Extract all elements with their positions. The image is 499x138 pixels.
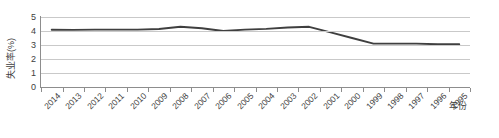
y-tick-label-3: 3: [20, 40, 36, 50]
x-axis-tick-20: [470, 88, 471, 92]
x-axis-tick-19: [449, 88, 450, 92]
x-axis-tick-17: [406, 88, 407, 92]
x-tick-label-2011: 2011: [106, 91, 126, 111]
x-axis-tick-11: [277, 88, 278, 92]
x-axis-tick-2: [84, 88, 85, 92]
x-tick-label-1999: 1999: [364, 91, 384, 111]
x-tick-label-2008: 2008: [170, 91, 190, 111]
series-polyline-0: [52, 27, 460, 45]
y-axis-title-text: 失业率(%): [4, 38, 17, 79]
x-axis-tick-10: [256, 88, 257, 92]
x-axis-tick-labels: 2014201320122011201020092008200720062005…: [0, 92, 499, 138]
x-axis-tick-8: [213, 88, 214, 92]
x-axis-tick-13: [320, 88, 321, 92]
gridline-y-1: [41, 73, 470, 74]
x-tick-label-2014: 2014: [42, 91, 62, 111]
x-tick-label-2012: 2012: [85, 91, 105, 111]
x-axis-tick-3: [105, 88, 106, 92]
x-axis-tick-4: [127, 88, 128, 92]
x-tick-label-2001: 2001: [321, 91, 341, 111]
x-tick-label-2007: 2007: [192, 91, 212, 111]
x-tick-label-2005: 2005: [235, 91, 255, 111]
x-tick-label-2013: 2013: [63, 91, 83, 111]
x-tick-label-2003: 2003: [278, 91, 298, 111]
y-tick-label-0: 0: [20, 82, 36, 92]
gridline-y-2: [41, 59, 470, 60]
x-axis-tick-6: [170, 88, 171, 92]
unemployment-rate-line-chart: 失业率(%) 012345 20142013201220112010200920…: [0, 0, 499, 138]
y-axis-tick-labels: 012345: [20, 12, 36, 92]
y-tick-label-5: 5: [20, 12, 36, 22]
plot-area: [41, 17, 470, 87]
x-axis-title: 年份: [449, 99, 467, 112]
x-tick-label-1997: 1997: [406, 91, 426, 111]
x-axis-tick-14: [341, 88, 342, 92]
x-tick-label-2006: 2006: [213, 91, 233, 111]
x-axis-tick-18: [427, 88, 428, 92]
x-axis-tick-15: [363, 88, 364, 92]
x-tick-label-2009: 2009: [149, 91, 169, 111]
gridline-y-3: [41, 45, 470, 46]
x-axis-tick-9: [234, 88, 235, 92]
x-axis-tick-12: [298, 88, 299, 92]
x-axis-tick-7: [191, 88, 192, 92]
x-tick-label-2002: 2002: [299, 91, 319, 111]
series-line: [41, 17, 470, 87]
x-tick-label-2010: 2010: [128, 91, 148, 111]
x-tick-label-2000: 2000: [342, 91, 362, 111]
x-axis-tick-5: [148, 88, 149, 92]
x-tick-label-2004: 2004: [256, 91, 276, 111]
x-tick-label-1998: 1998: [385, 91, 405, 111]
y-tick-label-2: 2: [20, 54, 36, 64]
gridline-y-5: [41, 17, 470, 18]
x-axis-tick-0: [41, 88, 42, 92]
x-tick-label-1996: 1996: [428, 91, 448, 111]
y-axis-title: 失业率(%): [2, 20, 18, 96]
x-axis-tick-16: [384, 88, 385, 92]
y-tick-label-1: 1: [20, 68, 36, 78]
gridline-y-4: [41, 31, 470, 32]
y-tick-label-4: 4: [20, 26, 36, 36]
x-axis-tick-1: [63, 88, 64, 92]
